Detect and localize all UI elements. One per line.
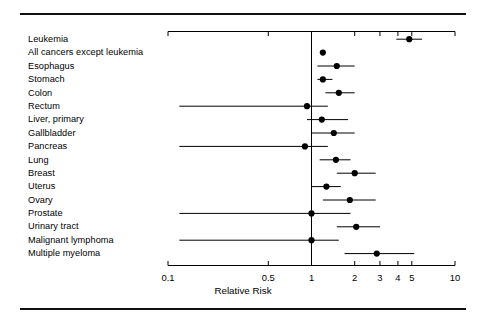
x-axis-tick-label: 10 <box>450 272 460 283</box>
forest-row <box>320 157 351 163</box>
point-estimate-marker <box>336 90 342 96</box>
forest-plot-figure: LeukemiaAll cancers except leukemiaEsoph… <box>0 0 486 326</box>
x-axis-tick-label: 5 <box>409 272 414 283</box>
point-estimate-marker <box>302 143 308 149</box>
forest-row <box>179 143 327 149</box>
point-estimate-marker <box>319 117 325 123</box>
x-axis-tick-label: 1 <box>309 272 314 283</box>
forest-row <box>179 210 350 216</box>
point-estimate-marker <box>304 103 310 109</box>
forest-row <box>317 76 332 82</box>
point-estimate-marker <box>320 50 326 56</box>
forest-row <box>345 251 415 257</box>
forest-row <box>179 237 338 243</box>
point-estimate-marker <box>406 36 412 42</box>
point-estimate-marker <box>347 197 353 203</box>
forest-row <box>337 170 376 176</box>
x-axis-tick-label: 0.5 <box>262 272 275 283</box>
forest-row <box>323 197 376 203</box>
x-axis-tick-label: 0.1 <box>161 272 174 283</box>
forest-row <box>312 130 355 136</box>
forest-row <box>396 36 422 42</box>
x-axis-tick-label: 2 <box>352 272 357 283</box>
forest-row <box>312 184 341 190</box>
forest-row <box>320 50 326 56</box>
point-estimate-marker <box>353 224 359 230</box>
point-estimate-marker <box>331 130 337 136</box>
point-estimate-marker <box>352 170 358 176</box>
point-estimate-marker <box>333 157 339 163</box>
forest-row <box>179 103 327 109</box>
point-estimate-marker <box>308 210 314 216</box>
forest-row <box>325 90 354 96</box>
forest-row <box>307 117 348 123</box>
x-axis-title: Relative Risk <box>0 285 486 296</box>
point-estimate-marker <box>334 63 340 69</box>
x-axis-tick-label: 4 <box>395 272 400 283</box>
point-estimate-marker <box>320 76 326 82</box>
point-estimate-marker <box>323 184 329 190</box>
x-axis-tick-label: 3 <box>377 272 382 283</box>
point-estimate-marker <box>308 237 314 243</box>
forest-row <box>337 224 380 230</box>
point-estimate-marker <box>374 251 380 257</box>
forest-row <box>317 63 354 69</box>
